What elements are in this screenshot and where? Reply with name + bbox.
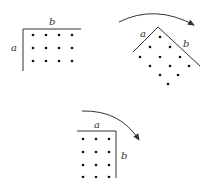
rotation-diagram: b a a b a b [0,0,206,178]
rotation-arrow-icon [82,111,139,140]
label-b: b [49,16,55,27]
label-a: a [11,42,17,53]
label-a: a [94,119,100,130]
rotation-arrow-icon [119,14,194,25]
label-b: b [121,150,127,161]
dot-grid [82,138,111,178]
panel-rotating: a b [119,14,200,86]
panel-rotated: a b [77,111,139,178]
panel-original: b a [11,16,81,71]
label-a: a [140,28,146,39]
dot-grid [32,34,74,63]
label-b: b [183,38,189,49]
